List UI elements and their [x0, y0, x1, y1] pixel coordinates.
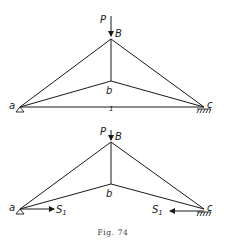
roller-support-icon	[16, 209, 24, 214]
top-right-support-label: c	[207, 99, 213, 110]
top-load-label: P	[100, 14, 107, 25]
member-ab	[20, 81, 111, 107]
top-apex-label: B	[115, 28, 122, 39]
bottom-right-support-label: c	[207, 202, 213, 213]
member-aB	[20, 39, 111, 107]
right-force-subscript: 1	[158, 209, 162, 217]
bottom-truss	[16, 130, 211, 216]
right-force-label: S1	[152, 204, 163, 217]
bottom-load-label: P	[100, 126, 107, 137]
left-force-label: S1	[56, 204, 67, 217]
top-inner-node-label: b	[106, 85, 112, 96]
member-Bc	[111, 39, 204, 107]
member-Bc	[111, 142, 204, 209]
bottom-inner-node-label: b	[106, 188, 112, 199]
top-truss	[16, 16, 211, 113]
member-ab	[20, 184, 111, 209]
roller-support-icon	[16, 107, 24, 112]
member-bc	[111, 81, 204, 107]
left-force-subscript: 1	[62, 209, 66, 217]
member-aB	[20, 142, 111, 209]
top-tie-marker: 1	[109, 105, 113, 113]
bottom-left-support-label: a	[9, 202, 15, 213]
fig-74-diagram: P B b a c 1 P B b a c S1 S1 Fig. 74	[0, 0, 226, 242]
bottom-apex-label: B	[115, 131, 122, 142]
figure-caption: Fig. 74	[98, 228, 129, 237]
top-left-support-label: a	[9, 100, 15, 111]
